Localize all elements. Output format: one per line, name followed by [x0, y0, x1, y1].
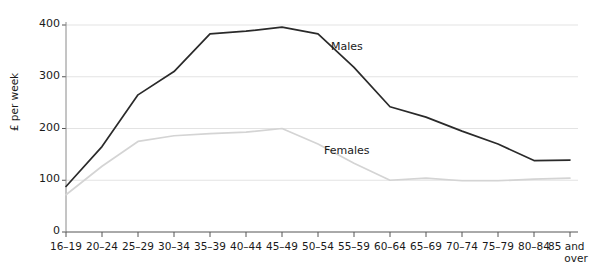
- x-tick-label-line: 85 and: [546, 240, 592, 252]
- series-line-females: [66, 129, 570, 195]
- series-label-females: Females: [324, 144, 370, 157]
- gridlines: [62, 25, 578, 232]
- series-label-males: Males: [331, 40, 363, 53]
- series-line-males: [66, 27, 570, 186]
- plot-area: [0, 0, 592, 279]
- data-series-group: [66, 27, 570, 195]
- axis-lines: [66, 22, 578, 232]
- x-tick-label: 85 andover: [546, 240, 592, 264]
- line-chart: £ per week 0100200300400 16–1920–2425–29…: [0, 0, 592, 279]
- x-tick-label-line: over: [546, 252, 592, 264]
- x-axis-ticks: [66, 232, 570, 237]
